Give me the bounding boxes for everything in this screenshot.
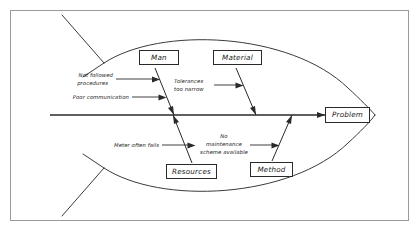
bone-arrowhead-resources-icon [173, 115, 179, 124]
cause-label-meter-often-fails: Meter often fails [114, 142, 159, 148]
bone-arrowhead-man-icon [168, 106, 174, 115]
category-label-man: Man [151, 53, 167, 62]
bone-man: Man [140, 51, 179, 116]
bone-arrowhead-method-icon [286, 115, 292, 124]
cause-meter-often-fails: Meter often fails [114, 142, 196, 149]
spine-arrowhead-icon [317, 112, 325, 118]
cause-label-no-maintenance-line3: scheme available [200, 149, 249, 155]
fishbone-diagram-canvas: Man Material Resources Method Proble [0, 0, 419, 231]
cause-arrowhead-meter-often-fails-icon [188, 143, 196, 149]
fish-tail-lower-notch [83, 154, 104, 168]
cause-arrowhead-poor-communication-icon [159, 95, 167, 101]
category-label-method: Method [257, 165, 285, 174]
cause-label-tolerances-line1: Tolerances [174, 78, 203, 84]
cause-label-not-followed-procedures-line1: Not followed [79, 72, 114, 78]
cause-no-maintenance-scheme: No maintenance scheme available [200, 133, 279, 155]
cause-poor-communication: Poor communication [73, 94, 167, 101]
cause-not-followed-procedures: Not followed procedures [76, 72, 160, 87]
cause-label-no-maintenance-line2: maintenance [206, 141, 242, 147]
cause-label-not-followed-procedures-line2: procedures [76, 80, 108, 87]
fish-tail-upper-fin [62, 15, 104, 63]
effect-group: Problem [326, 108, 370, 123]
effect-label-problem: Problem [332, 110, 363, 119]
fish-tail-lower-fin [62, 168, 104, 216]
spine-group [50, 112, 325, 118]
category-label-resources: Resources [172, 167, 211, 176]
cause-label-tolerances-line2: too narrow [174, 86, 204, 92]
cause-label-no-maintenance-line1: No [220, 133, 227, 139]
category-label-material: Material [222, 53, 253, 62]
bone-material: Material [214, 51, 262, 116]
bone-arrowhead-material-icon [250, 106, 256, 115]
fishbone-diagram: Man Material Resources Method Proble [0, 0, 419, 231]
cause-label-poor-communication: Poor communication [73, 94, 129, 100]
cause-tolerances-too-narrow: Tolerances too narrow [174, 78, 244, 92]
